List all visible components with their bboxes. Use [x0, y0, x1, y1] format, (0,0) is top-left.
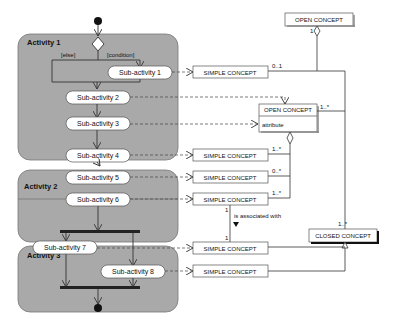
svg-text:Sub-activity 6: Sub-activity 6: [77, 196, 119, 204]
direction-triangle-icon: [233, 222, 239, 227]
svg-text:Sub-activity 7: Sub-activity 7: [44, 244, 86, 252]
svg-text:SIMPLE CONCEPT: SIMPLE CONCEPT: [203, 269, 256, 275]
subactivity-3[interactable]: Sub-activity 3: [66, 117, 130, 130]
svg-text:SIMPLE CONCEPT: SIMPLE CONCEPT: [203, 70, 256, 76]
svg-text:SIMPLE CONCEPT: SIMPLE CONCEPT: [203, 246, 256, 252]
guard-else: [else]: [61, 52, 76, 58]
open-concept-top[interactable]: OPEN CONCEPT: [285, 13, 355, 27]
simple-concept-7[interactable]: SIMPLE CONCEPT: [193, 242, 268, 254]
mult-open-mid: 1..*: [320, 104, 330, 110]
initial-node: [94, 17, 102, 25]
fork-bar: [60, 230, 140, 233]
subactivity-1[interactable]: Sub-activity 1: [108, 66, 172, 79]
svg-text:Sub-activity 5: Sub-activity 5: [77, 174, 119, 182]
svg-text:SIMPLE CONCEPT: SIMPLE CONCEPT: [203, 175, 256, 181]
simple-concept-8[interactable]: SIMPLE CONCEPT: [193, 265, 268, 277]
mult-closed: 1..*: [338, 221, 348, 227]
subactivity-2[interactable]: Sub-activity 2: [66, 91, 130, 104]
final-node: [94, 304, 102, 312]
mult-assoc-top: 1: [225, 207, 229, 213]
mult-assoc-bottom: 1: [225, 235, 229, 241]
subactivity-4[interactable]: Sub-activity 4: [66, 149, 130, 162]
svg-text:Sub-activity 8: Sub-activity 8: [112, 268, 154, 276]
activity-2-title: Activity 2: [24, 182, 57, 191]
svg-text:Sub-activity 3: Sub-activity 3: [77, 120, 119, 128]
svg-text:SIMPLE CONCEPT: SIMPLE CONCEPT: [203, 153, 256, 159]
svg-text:CLOSED CONCEPT: CLOSED CONCEPT: [315, 233, 371, 239]
svg-text:OPEN CONCEPT: OPEN CONCEPT: [264, 107, 312, 113]
simple-concept-4[interactable]: SIMPLE CONCEPT: [193, 149, 268, 161]
join-bar: [60, 286, 140, 289]
svg-text:Sub-activity 1: Sub-activity 1: [119, 69, 161, 77]
simple-concept-6[interactable]: SIMPLE CONCEPT: [193, 193, 268, 205]
simple-concept-1[interactable]: SIMPLE CONCEPT: [193, 66, 268, 78]
mult-s6: 1..*: [272, 190, 282, 196]
svg-text:Sub-activity 4: Sub-activity 4: [77, 152, 119, 160]
mult-open-top: 1: [310, 28, 314, 34]
svg-text:SIMPLE CONCEPT: SIMPLE CONCEPT: [203, 197, 256, 203]
simple-concept-5[interactable]: SIMPLE CONCEPT: [193, 171, 268, 183]
subactivity-6[interactable]: Sub-activity 6: [66, 193, 130, 206]
mult-s4: 1..*: [272, 146, 282, 152]
association-label: is associated with: [234, 213, 281, 219]
attribute-label: attribute: [262, 122, 284, 128]
open-concept-middle[interactable]: OPEN CONCEPT attribute: [259, 104, 319, 133]
subactivity-5[interactable]: Sub-activity 5: [66, 171, 130, 184]
closed-concept[interactable]: CLOSED CONCEPT: [309, 229, 379, 244]
activity-1-title: Activity 1: [27, 38, 60, 47]
svg-text:OPEN CONCEPT: OPEN CONCEPT: [295, 17, 343, 23]
mult-s5: 0..*: [272, 168, 282, 174]
guard-condition: [condition]: [107, 52, 135, 58]
mult-s1: 0..1: [272, 63, 283, 69]
svg-text:Sub-activity 2: Sub-activity 2: [77, 94, 119, 102]
diagram-canvas: Activity 1 Activity 2 Activity 3 [else] …: [0, 0, 400, 327]
subactivity-7[interactable]: Sub-activity 7: [33, 241, 97, 254]
subactivity-8[interactable]: Sub-activity 8: [101, 265, 165, 278]
